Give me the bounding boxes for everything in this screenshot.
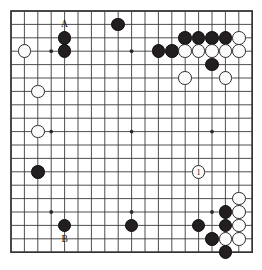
white-stone[interactable] [232,192,246,206]
go-diagram: 1 AB [0,0,262,270]
black-stone[interactable] [219,31,233,45]
white-stone[interactable] [219,71,233,85]
star-point [49,49,53,53]
black-stone[interactable] [178,31,192,45]
black-stone[interactable] [219,245,233,259]
white-stone[interactable] [219,232,233,246]
white-stone[interactable] [232,44,246,58]
star-point [49,130,53,134]
black-stone[interactable] [205,58,219,72]
white-stone[interactable] [205,44,219,58]
black-stone[interactable] [205,232,219,246]
black-stone[interactable] [219,205,233,219]
white-stone[interactable] [31,125,45,139]
white-stone[interactable] [232,205,246,219]
white-stone[interactable] [232,232,246,246]
stone-move-number: 1 [193,169,205,177]
star-point [130,49,134,53]
star-point [49,210,53,214]
white-stone[interactable] [178,71,192,85]
black-stone[interactable] [31,165,45,179]
white-stone[interactable] [232,219,246,233]
white-stone[interactable] [232,31,246,45]
black-stone[interactable] [165,44,179,58]
white-stone[interactable] [18,44,32,58]
white-stone[interactable] [31,85,45,99]
black-stone[interactable] [111,18,125,32]
black-stone[interactable] [58,31,72,45]
black-stone[interactable] [205,31,219,45]
black-stone[interactable] [192,31,206,45]
point-label-b: B [58,234,71,244]
star-point [210,210,214,214]
white-stone[interactable] [178,44,192,58]
star-point [130,130,134,134]
white-stone[interactable] [219,44,233,58]
star-point [130,210,134,214]
black-stone[interactable] [152,44,166,58]
white-stone[interactable]: 1 [192,165,206,179]
star-point [210,130,214,134]
point-label-a: A [58,19,71,29]
